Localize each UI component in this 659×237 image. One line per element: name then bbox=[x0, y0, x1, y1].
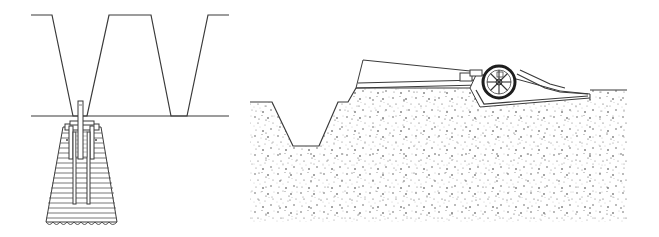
diagram-canvas: Two technical line drawings: left — cros… bbox=[0, 0, 659, 237]
trench-profile-line bbox=[31, 15, 229, 116]
right-panel bbox=[250, 60, 627, 222]
spoked-wheel bbox=[483, 66, 515, 98]
crib-foundation bbox=[46, 101, 117, 225]
left-panel bbox=[31, 15, 229, 225]
technical-drawing bbox=[0, 0, 659, 237]
vertical-rod bbox=[78, 101, 83, 159]
